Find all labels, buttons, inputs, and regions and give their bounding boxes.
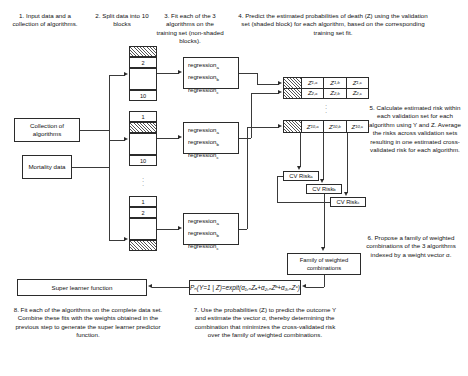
mortality-data-label: Mortality data [28, 163, 65, 171]
arrow-zb-to-cvrisk-b [320, 179, 324, 183]
regression-1b-label: regression [188, 73, 216, 80]
connector-family-down [324, 275, 325, 287]
z-table-top-row-1: Z1,a Z1,b Z1,c [284, 78, 368, 88]
z-2c-subscript: 2,c [356, 91, 362, 96]
block-stack-2-cell-0: 1 [129, 111, 157, 122]
connector-algorithms-to-bus [80, 130, 109, 131]
arrow-to-stack-1 [124, 72, 128, 76]
super-learner-function-label: Super learner function [52, 284, 113, 292]
regression-3b-label: regression [188, 229, 216, 236]
arrow-stack3-to-regression3 [178, 226, 182, 230]
z-table-bottom-cell-10b: Z10,b [323, 121, 345, 132]
regression-box-1: regressiona regressionb regressionc [183, 57, 239, 89]
regression-box-1-line-a: regressiona [188, 60, 234, 72]
branch-to-stack-2 [109, 140, 125, 141]
block-stack-3-cell-0-label: 1 [141, 199, 144, 205]
block-stack-1-cell-0 [129, 46, 157, 57]
z-10b-subscript: 10,b [333, 124, 341, 129]
connector-mortality-to-bus [72, 167, 109, 168]
arrow-to-stack-2 [124, 137, 128, 141]
connector-stack3-to-regression3 [157, 229, 179, 230]
connector-reg3-up [247, 127, 248, 229]
regression-1a-subscript: a [216, 65, 218, 70]
z-table-bottom: Z10,a Z10,b Z10,c [283, 120, 369, 133]
z-1b-subscript: 1,b [334, 80, 340, 85]
z-table-vertical-ellipsis: . . . [283, 103, 369, 113]
block-stack-1-cell-3: 10 [129, 90, 157, 101]
regression-box-3-line-a: regressiona [188, 216, 234, 228]
z-table-top-cell-2b: Z2,b [323, 89, 345, 99]
cv-risk-c-label: CV Risk [336, 199, 357, 205]
regression-box-3-line-b: regressionb [188, 228, 234, 240]
block-stack-2-cell-2 [129, 133, 157, 155]
connector-formula-to-superlearner [152, 287, 189, 288]
regression-2c-subscript: c [216, 155, 218, 160]
block-stack-1-cell-1: 2 [129, 57, 157, 68]
connector-reg2-out [239, 138, 251, 139]
connector-family-left [306, 287, 324, 288]
regression-box-2-line-b: regressionb [188, 137, 234, 149]
z-table-top-row-1-shaded-cell [284, 78, 301, 88]
block-stack-2-cell-3: 10 [129, 155, 157, 166]
z-table-bottom-cell-10c: Z10,c [346, 121, 368, 132]
z-table-bottom-shaded-cell [284, 121, 301, 132]
z-table-top-row-2: Z2,a Z2,b Z2,c [284, 88, 368, 99]
z-1c-subscript: 1,c [356, 80, 362, 85]
arrow-zc-to-cvrisk-c [344, 192, 348, 196]
block-stack-2-cell-0-label: 1 [141, 114, 144, 120]
regression-box-3: regressiona regressionb regressionc [183, 213, 239, 245]
cv-risk-spine-bottom [277, 202, 330, 203]
z-2a-subscript: 2,a [312, 91, 318, 96]
super-learner-function-box: Super learner function [17, 279, 147, 296]
regression-3a-label: regression [188, 217, 216, 224]
block-stack-1-cell-1-label: 2 [141, 60, 144, 66]
z-2b-subscript: 2,b [334, 91, 340, 96]
connector-stack2-to-regression2 [157, 138, 179, 139]
arrow-za-to-cvrisk-a [297, 166, 301, 170]
connector-reg3-out [239, 229, 247, 230]
collection-of-algorithms-label: Collection of algorithms [15, 122, 79, 138]
connector-za-to-cvrisk-a [300, 133, 301, 167]
family-of-weighted-combinations-label: Family of weighted combinations [288, 256, 360, 272]
connector-reg1-to-ztable [257, 84, 279, 85]
cv-risk-c-subscript: c [357, 200, 359, 205]
connector-reg2-to-ztable [251, 93, 279, 94]
z-table-top: Z1,a Z1,b Z1,c Z2,a Z2,b Z2,c [283, 77, 369, 99]
caption-step-1: 1. Input data and a collection of algori… [6, 12, 84, 29]
arrow-stack1-to-regression1 [178, 70, 182, 74]
regression-box-2: regressiona regressionb regressionc [183, 122, 239, 154]
block-stack-1-cell-2 [129, 68, 157, 90]
connector-stack1-to-regression1 [157, 73, 179, 74]
regression-box-2-line-a: regressiona [188, 125, 234, 137]
caption-step-6: 6. Propose a family of weighted combinat… [358, 234, 464, 259]
z-table-bottom-row-1: Z10,a Z10,b Z10,c [284, 121, 368, 132]
family-of-weighted-combinations-box: Family of weighted combinations [287, 253, 361, 275]
weighted-combination-formula-box: Pₙ(Y=1 | Z)=expit(α₁,ₙZₐ+α₂,ₙZᵇ+α₃,ₙZᶜ) [189, 280, 301, 295]
branch-to-stack-1 [109, 75, 125, 76]
regression-3b-subscript: b [216, 234, 218, 239]
block-stack-3-cell-2 [129, 218, 157, 240]
z-table-top-cell-2c: Z2,c [346, 89, 368, 99]
cv-risk-spine [277, 176, 278, 202]
block-stack-3-cell-1: 2 [129, 207, 157, 218]
mortality-data-box: Mortality data [22, 155, 72, 179]
block-stack-3-cell-3 [129, 240, 157, 251]
block-stack-2-cell-3-label: 10 [140, 158, 146, 164]
regression-2b-subscript: b [216, 143, 218, 148]
caption-step-7: 7. Use the probabilities (Z) to predict … [190, 306, 340, 340]
regression-box-1-line-b: regressionb [188, 72, 234, 84]
z-table-top-cell-1b: Z1,b [323, 78, 345, 88]
block-stack-3-cell-0: 1 [129, 196, 157, 207]
cv-risk-c-box: CV Riskc [330, 197, 366, 207]
z-1a-subscript: 1,a [312, 80, 318, 85]
vertical-ellipsis: . . . [129, 176, 157, 186]
cv-risk-b-label: CV Risk [312, 186, 333, 192]
regression-box-1-line-c: regressionc [188, 85, 234, 97]
diagram-canvas: 1. Input data and a collection of algori… [0, 0, 468, 376]
connector-reg1-down [257, 73, 258, 84]
connector-reg2-up [251, 93, 252, 138]
z-table-top-cell-2a: Z2,a [301, 89, 323, 99]
arrow-reg3-to-ztable [278, 124, 282, 128]
caption-step-5: 5. Calculate estimated risk within each … [366, 104, 464, 154]
regression-box-3-line-c: regressionc [188, 241, 234, 253]
